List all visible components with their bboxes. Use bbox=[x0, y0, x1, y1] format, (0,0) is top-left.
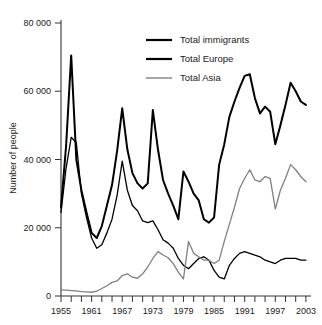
series-line-total-asia bbox=[61, 165, 306, 293]
y-tick-label: 80 000 bbox=[23, 18, 51, 28]
y-tick-label: 60 000 bbox=[23, 86, 51, 96]
chart-canvas: 020 00040 00060 00080 000 19551961196719… bbox=[0, 0, 322, 325]
y-tick-label: 40 000 bbox=[23, 155, 51, 165]
x-tick-label: 1961 bbox=[82, 306, 102, 316]
x-tick-label: 1973 bbox=[143, 306, 163, 316]
x-tick-label: 1985 bbox=[204, 306, 224, 316]
x-tick-label: 1997 bbox=[265, 306, 285, 316]
legend-label: Total Europe bbox=[180, 53, 233, 64]
x-tick-label: 1979 bbox=[173, 306, 193, 316]
chart-legend: Total immigrantsTotal EuropeTotal Asia bbox=[146, 34, 249, 83]
y-axis-ticks: 020 00040 00060 00080 000 bbox=[23, 18, 61, 301]
series-lines bbox=[61, 55, 306, 292]
x-axis-ticks: 195519611967197319791985199119972003 bbox=[51, 296, 316, 316]
x-tick-label: 1991 bbox=[235, 306, 255, 316]
y-tick-label: 0 bbox=[46, 291, 51, 301]
series-line-total-europe bbox=[61, 137, 306, 279]
x-tick-label: 1967 bbox=[112, 306, 132, 316]
line-chart-immigration: 020 00040 00060 00080 000 19551961196719… bbox=[0, 0, 322, 325]
y-axis-title: Number of people bbox=[8, 122, 18, 194]
x-tick-label: 2003 bbox=[296, 306, 316, 316]
legend-label: Total Asia bbox=[180, 72, 221, 83]
y-tick-label: 20 000 bbox=[23, 223, 51, 233]
x-tick-label: 1955 bbox=[51, 306, 71, 316]
legend-label: Total immigrants bbox=[180, 34, 249, 45]
